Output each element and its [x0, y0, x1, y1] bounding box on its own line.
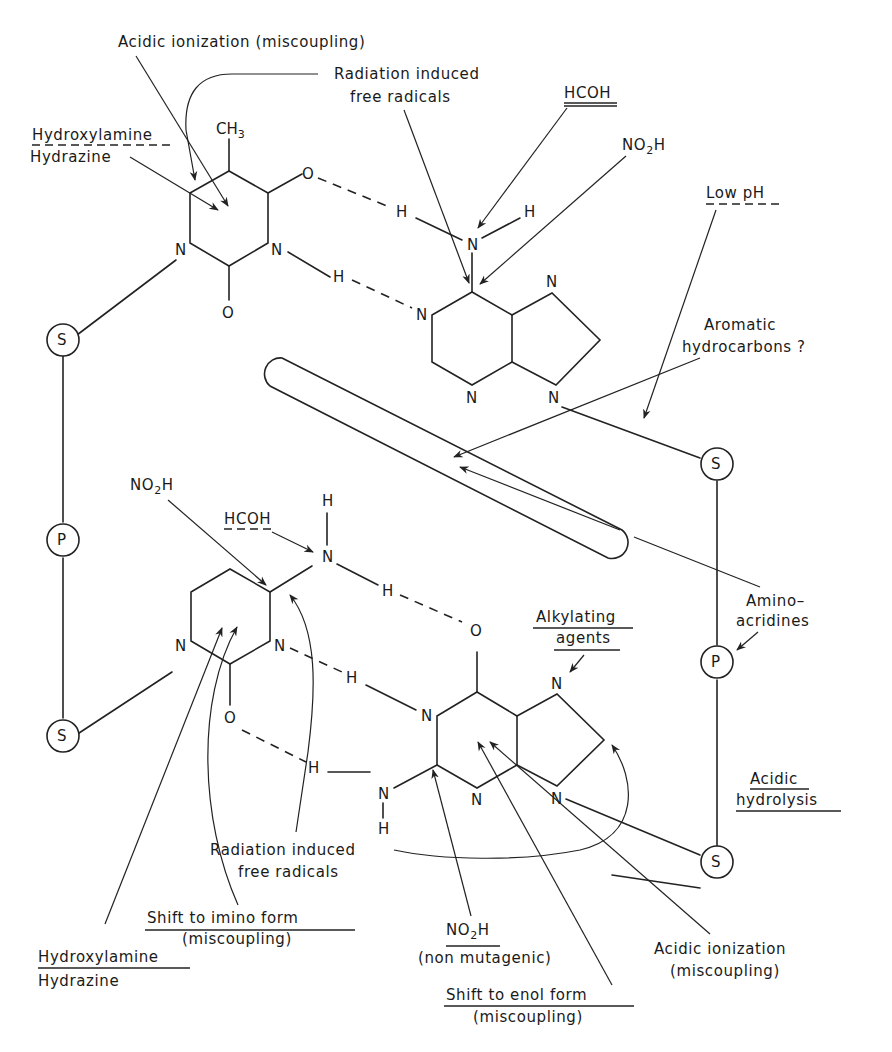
hydrogen-bond — [242, 730, 306, 762]
mutagen-attack-diagram: CH3 O O N N H H N H N N N N S P — [0, 0, 892, 1052]
atom-amino-h-top: H — [322, 492, 333, 510]
hydrogen-bond — [400, 595, 462, 622]
label-acidic-hydrolysis-1: Acidic — [750, 770, 798, 788]
atom-pur-n1: N — [421, 707, 432, 725]
atom-pur-n7: N — [551, 675, 562, 693]
adenine-ring — [432, 292, 600, 385]
label-hydrazine-top: Hydrazine — [30, 148, 111, 166]
label-enol-2: (miscoupling) — [473, 1008, 583, 1026]
label-hcoh-mid: HCOH — [224, 510, 271, 528]
atom-pur-n7: N — [546, 273, 557, 291]
backbone-sugar: S — [57, 727, 67, 745]
atom-o-guanine: O — [470, 622, 482, 640]
bottom-base-pair: N H H O N N H O H N N N N N H — [175, 492, 700, 855]
thymine-ring — [190, 139, 330, 300]
label-no2h-bottom: NO2H — [446, 921, 490, 942]
atom-amino-h: H — [524, 203, 535, 221]
label-hydroxylamine-bottom: Hydroxylamine — [38, 948, 159, 966]
cytosine-ring — [191, 566, 312, 705]
label-acidic-hydrolysis-2: hydrolysis — [736, 791, 818, 809]
label-low-ph: Low pH — [706, 184, 765, 202]
backbone-phosphate: P — [711, 653, 720, 671]
atom-n3: N — [271, 241, 282, 259]
label-imino-1: Shift to imino form — [147, 909, 298, 927]
atom-pur-n9: N — [548, 389, 559, 407]
label-acidic-ionization-top: Acidic ionization (miscoupling) — [118, 33, 365, 51]
backbone-right: S P S — [562, 407, 733, 888]
label-enol-1: Shift to enol form — [446, 986, 587, 1004]
label-acidic-ionization-bottom-1: Acidic ionization — [654, 940, 786, 958]
atom-n1: N — [175, 241, 186, 259]
atom-g-amino-h: H — [378, 820, 389, 838]
label-hydroxylamine-top: Hydroxylamine — [32, 126, 153, 144]
label-hydrazine-bottom: Hydrazine — [38, 972, 119, 990]
methyl-group: CH3 — [216, 120, 245, 141]
atom-pur-n9: N — [551, 790, 562, 808]
label-acidic-ionization-bottom-2: (miscoupling) — [670, 962, 780, 980]
backbone-sugar: S — [711, 853, 721, 871]
atom-n3: N — [274, 637, 285, 655]
hydrogen-bond — [352, 280, 412, 308]
label-radiation-bottom-1: Radiation induced — [210, 841, 356, 859]
atom-h-bond-2: H — [346, 669, 357, 687]
hydrogen-bond — [318, 178, 392, 208]
backbone-phosphate: P — [57, 531, 66, 549]
atom-pur-n1: N — [416, 306, 427, 324]
backbone-sugar: S — [57, 331, 67, 349]
backbone-sugar: S — [711, 455, 721, 473]
label-radiation-top-1: Radiation induced — [334, 65, 480, 83]
hydrogen-bond — [290, 648, 342, 672]
label-radiation-bottom-2: free radicals — [238, 863, 339, 881]
label-radiation-top-2: free radicals — [350, 88, 451, 106]
atom-h-bond-1: H — [396, 203, 407, 221]
label-non-mutagenic: (non mutagenic) — [418, 949, 552, 967]
atom-amino-n: N — [322, 548, 333, 566]
atom-g-amino-n: N — [378, 785, 389, 803]
label-aromatic-2: hydrocarbons ? — [682, 338, 806, 356]
atom-h-bond-3: H — [308, 759, 319, 777]
backbone-left: S P S — [47, 260, 176, 752]
atom-pur-n3: N — [466, 389, 477, 407]
atom-amino-n: N — [467, 236, 478, 254]
atom-o-cytosine: O — [224, 709, 236, 727]
atom-n1: N — [175, 637, 186, 655]
label-no2h-top: NO2H — [622, 136, 666, 157]
intercalator-slab — [265, 358, 629, 559]
atom-h-bond-2: H — [333, 268, 344, 286]
atom-h-bond-1: H — [382, 582, 393, 600]
label-aminoacridines-2: acridines — [736, 612, 809, 630]
label-no2h-mid: NO2H — [130, 476, 174, 497]
label-aminoacridines-1: Amino– — [746, 592, 805, 610]
label-aromatic-1: Aromatic — [704, 316, 776, 334]
label-hcoh-top: HCOH — [564, 84, 611, 102]
label-imino-2: (miscoupling) — [182, 930, 292, 948]
top-base-pair: CH3 O O N N H H N H N N N N — [175, 120, 600, 407]
label-alkylating-2: agents — [556, 629, 611, 647]
atom-pur-n3: N — [471, 791, 482, 809]
label-alkylating-1: Alkylating — [536, 608, 616, 626]
atom-o-upper: O — [302, 165, 314, 183]
atom-o-lower: O — [222, 304, 234, 322]
